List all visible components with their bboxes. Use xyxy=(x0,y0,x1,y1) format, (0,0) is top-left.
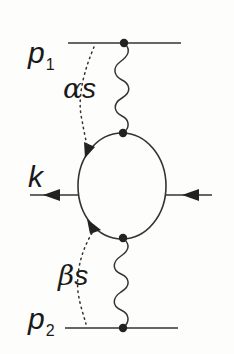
beta-s-var: s xyxy=(74,260,88,291)
label-k-text: k xyxy=(28,160,43,193)
vertex-loop-bottom xyxy=(119,234,127,242)
label-p1-sub: 1 xyxy=(46,56,55,73)
alpha-symbol: α xyxy=(63,72,82,105)
bottom-gluon-line xyxy=(114,238,128,328)
vertex-bottom-p2 xyxy=(119,324,127,332)
vertex-top-p1 xyxy=(120,39,128,47)
feynman-diagram: p1 αs k βs p2 xyxy=(0,0,234,354)
label-p2-sub: 2 xyxy=(46,322,55,339)
label-p1-main: p xyxy=(28,36,45,69)
label-p1: p1 xyxy=(28,38,55,68)
vertex-loop-top xyxy=(119,129,127,137)
label-beta-s: βs xyxy=(58,262,88,290)
label-p2: p2 xyxy=(28,304,55,334)
right-arrow-left-icon xyxy=(182,189,199,201)
k-arrow-left-icon xyxy=(43,189,60,201)
loop-arrow-upper-left-icon xyxy=(84,142,95,158)
label-alpha-s: αs xyxy=(63,75,96,103)
alpha-s-var: s xyxy=(82,73,96,104)
label-k: k xyxy=(28,162,43,192)
label-p2-main: p xyxy=(28,302,45,335)
beta-symbol: β xyxy=(58,259,74,292)
top-gluon-line xyxy=(115,43,129,133)
